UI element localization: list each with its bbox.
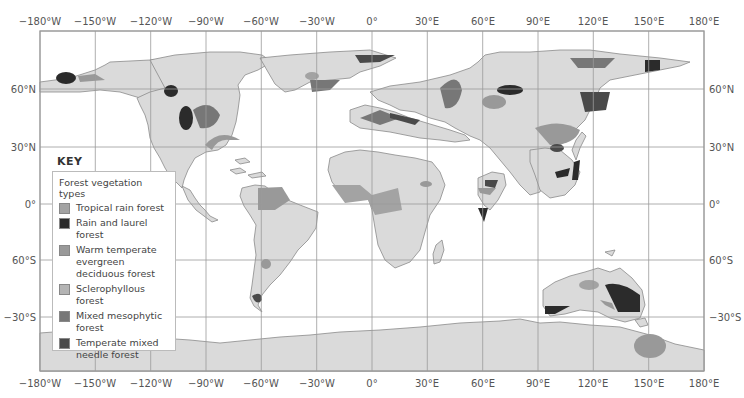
lon-label-top: 90°E	[526, 16, 550, 27]
region-alaska-needle	[56, 72, 76, 84]
legend-label: Temperate mixed needle forest	[76, 337, 169, 361]
region-kamchatka-needle	[645, 60, 660, 72]
legend-label: Sclerophyllous forest	[76, 283, 169, 307]
swatch-sclerophyllous-forest	[59, 284, 70, 295]
lon-label-bottom: 180°E	[689, 378, 719, 389]
lon-label-bottom: 150°E	[634, 378, 664, 389]
lon-label-top: −120°W	[130, 16, 172, 27]
lon-label-bottom: 30°E	[415, 378, 439, 389]
lon-label-top: −180°W	[19, 16, 61, 27]
legend-label: Rain and laurel forest	[76, 217, 169, 241]
legend-item: Rain and laurel forest	[59, 217, 169, 241]
legend-label: Warm temperate evergreen deciduous fores…	[76, 244, 169, 280]
swatch-rain-and-laurel-forest	[59, 218, 70, 229]
swatch-tropical-rain-forest	[59, 203, 70, 214]
lon-label-bottom: 120°E	[578, 378, 608, 389]
lon-label-top: 30°E	[415, 16, 439, 27]
legend-heading: Forest vegetation types	[59, 177, 169, 199]
lon-label-bottom: −150°W	[74, 378, 116, 389]
lon-label-top: 120°E	[578, 16, 608, 27]
lon-label-top: 0°	[366, 16, 377, 27]
region-bc-rain	[164, 85, 178, 97]
lon-label-top: 60°E	[471, 16, 495, 27]
lat-label-right: 60°S	[709, 255, 733, 266]
lon-label-bottom: −60°W	[243, 378, 279, 389]
swatch-warm-temperate-forest	[59, 245, 70, 256]
lon-label-bottom: −120°W	[130, 378, 172, 389]
lon-label-bottom: 60°E	[471, 378, 495, 389]
swatch-mixed-mesophytic-forest	[59, 311, 70, 322]
region-australia-sclero	[579, 280, 599, 290]
region-sa-mixed	[261, 259, 271, 269]
swatch-temperate-mixed-needle-forest	[59, 338, 70, 349]
region-west-na-rain	[179, 106, 193, 130]
legend-item: Mixed mesophytic forest	[59, 310, 169, 334]
lat-label-right: −30°S	[709, 312, 741, 323]
lat-label-left: 0°	[0, 199, 36, 210]
lon-label-top: −90°W	[188, 16, 224, 27]
lon-label-top: −60°W	[243, 16, 279, 27]
lon-label-bottom: −180°W	[19, 378, 61, 389]
lat-label-left: 60°S	[0, 255, 36, 266]
legend-label: Mixed mesophytic forest	[76, 310, 169, 334]
region-manchuria-mixed	[580, 92, 610, 112]
legend-item: Temperate mixed needle forest	[59, 337, 169, 361]
lat-label-left: 30°N	[0, 142, 36, 153]
region-central-asia-needle	[497, 85, 523, 95]
legend: Forest vegetation types Tropical rain fo…	[52, 171, 176, 351]
lon-label-bottom: −30°W	[299, 378, 335, 389]
lon-label-bottom: 90°E	[526, 378, 550, 389]
lat-label-left: −30°S	[0, 312, 36, 323]
region-china-needle	[550, 144, 564, 152]
legend-item: Sclerophyllous forest	[59, 283, 169, 307]
lon-label-top: −150°W	[74, 16, 116, 27]
lon-label-top: −30°W	[299, 16, 335, 27]
region-east-africa-warm	[420, 181, 432, 187]
lat-label-right: 60°N	[709, 84, 734, 95]
region-west-asia-warm	[482, 95, 506, 109]
lat-label-right: 0°	[709, 199, 720, 210]
lat-label-right: 30°N	[709, 142, 734, 153]
legend-label: Tropical rain forest	[76, 202, 164, 214]
lon-label-top: 150°E	[634, 16, 664, 27]
region-nz-warm	[634, 334, 666, 358]
lon-label-top: 180°E	[689, 16, 719, 27]
lat-label-left: 60°N	[0, 84, 36, 95]
key-title: KEY	[57, 155, 83, 168]
legend-item: Tropical rain forest	[59, 202, 169, 214]
lon-label-bottom: 0°	[366, 378, 377, 389]
lon-label-bottom: −90°W	[188, 378, 224, 389]
legend-item: Warm temperate evergreen deciduous fores…	[59, 244, 169, 280]
